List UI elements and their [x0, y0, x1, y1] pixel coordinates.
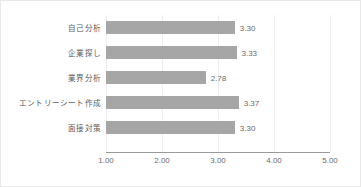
- category-label: 企業探し: [0, 47, 101, 58]
- category-label: 面接対策: [0, 122, 101, 133]
- bar-value-label: 2.78: [211, 73, 227, 82]
- bar: [106, 46, 237, 59]
- bar: [106, 71, 206, 84]
- x-tick-label: 4.00: [266, 156, 282, 165]
- bar-container: 3.33: [106, 46, 237, 59]
- bar-row: エントリーシート作成 3.37: [1, 90, 361, 115]
- bar-row: 企業探し 3.33: [1, 40, 361, 65]
- x-tick-label: 2.00: [154, 156, 170, 165]
- category-label: 業界分析: [0, 72, 101, 83]
- bar-value-label: 3.37: [244, 98, 260, 107]
- bar-container: 3.37: [106, 96, 239, 109]
- x-tick-label: 1.00: [98, 156, 114, 165]
- bar-chart: 自己分析 3.30 企業探し 3.33 業界分析 2.78: [0, 0, 361, 187]
- x-tick-label: 3.00: [210, 156, 226, 165]
- bar-row: 自己分析 3.30: [1, 15, 361, 40]
- bar-value-label: 3.30: [240, 123, 256, 132]
- x-axis-ticks: 1.00 2.00 3.00 4.00 5.00: [1, 156, 361, 170]
- bar-row: 業界分析 2.78: [1, 65, 361, 90]
- category-label: 自己分析: [0, 22, 101, 33]
- bar-container: 3.30: [106, 121, 235, 134]
- x-tick-label: 5.00: [322, 156, 338, 165]
- category-label: エントリーシート作成: [0, 97, 101, 108]
- bar: [106, 21, 235, 34]
- bar-rows: 自己分析 3.30 企業探し 3.33 業界分析 2.78: [1, 15, 361, 140]
- bar-row: 面接対策 3.30: [1, 115, 361, 140]
- bar-container: 3.30: [106, 21, 235, 34]
- bar: [106, 96, 239, 109]
- plot-area: 自己分析 3.30 企業探し 3.33 業界分析 2.78: [1, 1, 361, 187]
- bar: [106, 121, 235, 134]
- x-axis-line: [106, 152, 330, 153]
- bar-value-label: 3.33: [242, 48, 258, 57]
- bar-value-label: 3.30: [240, 23, 256, 32]
- bar-container: 2.78: [106, 71, 206, 84]
